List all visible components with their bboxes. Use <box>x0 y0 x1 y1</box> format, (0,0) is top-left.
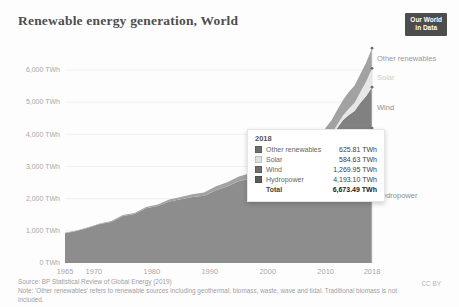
y-axis-tick-label: 4,000 TWh <box>26 131 60 138</box>
y-axis-tick-label: 2,000 TWh <box>26 195 60 202</box>
y-axis-tick-label: 0 TWh <box>40 259 61 266</box>
x-axis-tick-label: 1990 <box>201 267 218 276</box>
tooltip-total-row: Total 6,673.49 TWh <box>255 186 377 193</box>
series-endpoint-dot <box>371 47 374 50</box>
tooltip-series-value: 625.81 TWh <box>339 146 377 153</box>
series-endpoint-dot <box>371 86 374 89</box>
x-axis-tick-label: 2010 <box>317 267 334 276</box>
series-endpoint-dot <box>371 67 374 70</box>
tooltip-series-label: Hydropower <box>266 176 304 183</box>
tooltip-row: Wind1,269.95 TWh <box>255 166 377 173</box>
series-swatch <box>255 146 262 153</box>
y-axis-tick-label: 5,000 TWh <box>26 98 60 105</box>
tooltip-series-label: Other renewables <box>266 146 321 153</box>
series-label-other-renewables: Other renewables <box>377 54 436 63</box>
x-axis-tick-label: 1965 <box>57 267 74 276</box>
series-label-solar: Solar <box>377 73 395 82</box>
tooltip-series-value: 1,269.95 TWh <box>333 166 377 173</box>
tooltip-series-label: Solar <box>266 156 282 163</box>
y-axis-tick-label: 6,000 TWh <box>26 66 60 73</box>
y-axis-tick-label: 3,000 TWh <box>26 163 60 170</box>
series-label-wind: Wind <box>377 103 394 112</box>
series-swatch <box>255 176 262 183</box>
stacked-area-chart[interactable]: 0 TWh1,000 TWh2,000 TWh3,000 TWh4,000 TW… <box>0 0 459 307</box>
x-axis-tick-label: 2000 <box>259 267 276 276</box>
x-axis-tick-label: 1980 <box>144 267 161 276</box>
series-swatch <box>255 166 262 173</box>
tooltip-year: 2018 <box>255 134 377 143</box>
series-swatch <box>255 156 262 163</box>
tooltip-row: Solar584.63 TWh <box>255 156 377 163</box>
x-axis-tick-label: 1970 <box>86 267 103 276</box>
tooltip-series-value: 584.63 TWh <box>339 156 377 163</box>
tooltip-row: Other renewables625.81 TWh <box>255 146 377 153</box>
y-axis-tick-label: 1,000 TWh <box>26 227 60 234</box>
tooltip-total-label: Total <box>266 186 282 193</box>
license-label[interactable]: CC BY <box>421 280 441 287</box>
tooltip-series-value: 4,193.10 TWh <box>333 176 377 183</box>
x-axis-tick-label: 2018 <box>364 267 381 276</box>
source-line: Source: BP Statistical Review of Global … <box>18 278 418 287</box>
tooltip-total-value: 6,673.49 TWh <box>333 186 377 193</box>
note-line: Note: 'Other renewables' refers to renew… <box>18 287 418 305</box>
hover-tooltip: 2018 Other renewables625.81 TWhSolar584.… <box>247 129 385 202</box>
tooltip-series-label: Wind <box>266 166 282 173</box>
tooltip-row: Hydropower4,193.10 TWh <box>255 176 377 183</box>
chart-footer: Source: BP Statistical Review of Global … <box>18 278 418 305</box>
